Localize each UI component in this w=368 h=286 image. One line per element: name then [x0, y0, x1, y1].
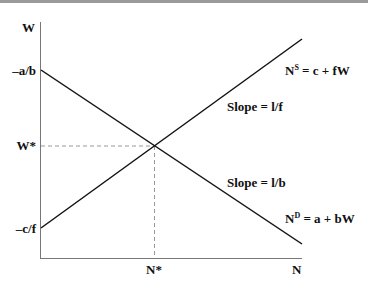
supply-intercept-label: –c/f: [15, 221, 37, 236]
x-axis-label: N: [292, 262, 302, 277]
supply-demand-diagram: W N –a/b W* –c/f N* NS = c + fW Slope = …: [0, 0, 368, 286]
equilibrium-wage-label: W*: [17, 138, 37, 153]
y-axis-label: W: [22, 20, 35, 35]
supply-equation: NS = c + fW: [285, 63, 350, 78]
demand-equation: ND = a + bW: [285, 211, 355, 226]
demand-curve: [41, 70, 302, 244]
demand-slope-label: Slope = l/b: [227, 175, 286, 190]
equilibrium-employment-label: N*: [146, 262, 162, 277]
demand-intercept-label: –a/b: [11, 63, 36, 78]
supply-curve: [41, 39, 302, 228]
supply-slope-label: Slope = l/f: [227, 99, 283, 114]
